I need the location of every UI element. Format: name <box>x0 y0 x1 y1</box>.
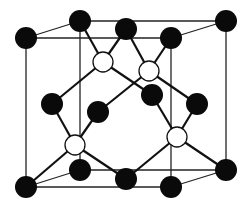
dark-atom-face-bottom-center <box>115 168 137 190</box>
dark-atom-corner-front-bottom-left <box>15 176 37 198</box>
interstitial-atoms-light <box>65 52 187 155</box>
dark-atom-corner-back-bottom-left <box>69 159 91 181</box>
dark-atom-face-right-center <box>186 93 208 115</box>
dark-atom-face-top-center <box>115 18 137 40</box>
dark-atom-corner-front-top-left <box>15 27 37 49</box>
dark-atom-corner-back-top-left <box>69 10 91 32</box>
dark-atom-corner-back-bottom-right <box>215 159 237 181</box>
light-atom-tetra-2 <box>139 61 159 81</box>
dark-atom-corner-front-top-right <box>160 27 182 49</box>
dark-atom-face-back-center <box>141 84 163 106</box>
dark-atom-face-front-center <box>87 101 109 123</box>
light-atom-tetra-4 <box>167 127 187 147</box>
dark-atom-corner-back-top-right <box>215 10 237 32</box>
crystal-lattice-diagram <box>0 0 247 211</box>
dark-atom-face-left-center <box>41 93 63 115</box>
light-atom-tetra-3 <box>65 135 85 155</box>
dark-atom-corner-front-bottom-right <box>160 176 182 198</box>
light-atom-tetra-1 <box>93 52 113 72</box>
